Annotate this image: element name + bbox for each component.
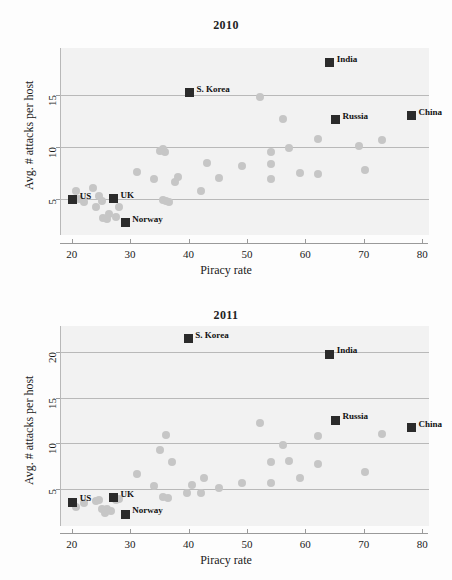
gridline-y — [61, 443, 429, 444]
figure-root: 2010 USUKNorwayS. KoreaIndiaRussiaChina … — [0, 0, 452, 580]
data-point-label: China — [418, 107, 442, 117]
data-point — [285, 457, 293, 465]
data-point — [161, 148, 169, 156]
x-axis-line — [60, 533, 428, 534]
data-point-label: US — [80, 493, 92, 503]
data-point-label: China — [418, 419, 442, 429]
data-point — [200, 474, 208, 482]
data-point — [279, 115, 287, 123]
data-point — [361, 468, 369, 476]
highlighted-data-point — [407, 111, 416, 120]
data-point — [267, 175, 275, 183]
y-axis-tick-label: 10 — [46, 147, 58, 169]
data-point — [314, 135, 322, 143]
x-axis-tick-label: 80 — [405, 538, 439, 550]
data-point — [197, 489, 205, 497]
x-axis-tick — [130, 239, 131, 243]
data-point — [355, 142, 363, 150]
highlighted-data-point — [121, 218, 130, 227]
chart-panel-2010: 2010 USUKNorwayS. KoreaIndiaRussiaChina … — [0, 0, 452, 290]
x-axis-tick — [247, 239, 248, 243]
y-axis-tick-label: 15 — [46, 398, 58, 420]
gridline-y — [61, 352, 429, 353]
chart-title-2011: 2011 — [0, 308, 452, 323]
highlighted-data-point — [407, 423, 416, 432]
plot-area-2011: USUKNorwayS. KoreaIndiaRussiaChina — [60, 326, 429, 526]
y-axis-tick-label: 5 — [46, 489, 58, 511]
highlighted-data-point — [331, 416, 340, 425]
data-point — [215, 484, 223, 492]
x-axis-tick — [189, 529, 190, 533]
plot-inner-2010: USUKNorwayS. KoreaIndiaRussiaChina — [61, 48, 429, 235]
highlighted-data-point — [68, 498, 77, 507]
x-axis-tick — [305, 529, 306, 533]
data-point — [296, 474, 304, 482]
x-axis-tick-label: 60 — [288, 248, 322, 260]
data-point — [168, 458, 176, 466]
y-axis-title-2011: Avg. # attacks per host — [22, 376, 37, 485]
data-point-label: Norway — [132, 505, 163, 515]
data-point — [267, 148, 275, 156]
x-axis-title-2010: Piracy rate — [0, 263, 452, 278]
data-point — [314, 432, 322, 440]
y-axis-title-2010: Avg. # attacks per host — [22, 81, 37, 190]
data-point — [203, 159, 211, 167]
data-point — [215, 174, 223, 182]
highlighted-data-point — [331, 115, 340, 124]
data-point — [98, 197, 106, 205]
data-point-label: India — [337, 54, 358, 64]
data-point — [107, 507, 115, 515]
data-point — [165, 198, 173, 206]
data-point-label: UK — [121, 489, 135, 499]
x-axis-tick — [247, 529, 248, 533]
data-point-label: India — [337, 345, 358, 355]
data-point — [279, 441, 287, 449]
data-point — [285, 144, 293, 152]
data-point — [378, 430, 386, 438]
highlighted-data-point — [185, 88, 194, 97]
data-point-label: UK — [121, 190, 135, 200]
data-point — [183, 489, 191, 497]
data-point — [238, 479, 246, 487]
data-point-label: Russia — [343, 411, 369, 421]
plot-area-2010: USUKNorwayS. KoreaIndiaRussiaChina — [60, 48, 429, 235]
gridline-y — [61, 398, 429, 399]
highlighted-data-point — [109, 194, 118, 203]
data-point — [256, 419, 264, 427]
data-point — [115, 203, 123, 211]
data-point — [112, 213, 120, 221]
y-axis-tick-label: 5 — [46, 199, 58, 221]
x-axis-tick — [189, 239, 190, 243]
x-axis-line — [60, 243, 428, 244]
x-axis-tick — [72, 529, 73, 533]
plot-inner-2011: USUKNorwayS. KoreaIndiaRussiaChina — [61, 326, 429, 526]
data-point — [164, 494, 172, 502]
data-point — [95, 496, 103, 504]
data-point — [267, 479, 275, 487]
highlighted-data-point — [325, 58, 334, 67]
chart-title-2010: 2010 — [0, 18, 452, 33]
highlighted-data-point — [325, 350, 334, 359]
x-axis-tick — [364, 529, 365, 533]
gridline-y — [61, 489, 429, 490]
data-point-label: S. Korea — [195, 330, 228, 340]
y-axis-tick-label: 15 — [46, 95, 58, 117]
data-point — [267, 458, 275, 466]
data-point — [162, 431, 170, 439]
x-axis-tick-label: 70 — [347, 248, 381, 260]
y-axis-tick-label: 10 — [46, 443, 58, 465]
data-point — [296, 169, 304, 177]
data-point-label: US — [80, 191, 92, 201]
x-axis-tick-label: 20 — [55, 248, 89, 260]
data-point — [174, 173, 182, 181]
x-axis-tick-label: 20 — [55, 538, 89, 550]
data-point — [267, 160, 275, 168]
data-point — [256, 93, 264, 101]
data-point-label: Russia — [343, 111, 369, 121]
x-axis-tick-label: 40 — [172, 248, 206, 260]
highlighted-data-point — [68, 195, 77, 204]
data-point — [188, 481, 196, 489]
x-axis-tick-label: 60 — [288, 538, 322, 550]
x-axis-tick — [305, 239, 306, 243]
data-point-label: S. Korea — [197, 84, 230, 94]
